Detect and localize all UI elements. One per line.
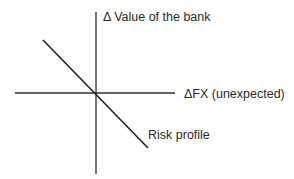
risk-profile-diagram: Δ Value of the bank ΔFX (unexpected) Ris…	[0, 0, 294, 179]
x-axis-label: ΔFX (unexpected)	[184, 88, 285, 101]
y-axis-label: Δ Value of the bank	[103, 11, 211, 24]
risk-profile-label: Risk profile	[148, 129, 210, 142]
